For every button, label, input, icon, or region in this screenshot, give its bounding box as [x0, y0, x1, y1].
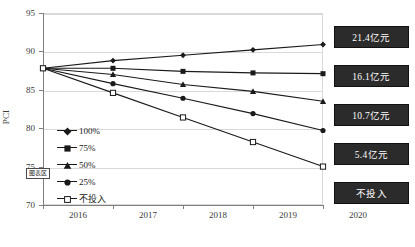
- chart-area-tooltip: 图表区: [26, 168, 50, 179]
- data-point[interactable]: [111, 66, 116, 71]
- value-box-75[interactable]: 16.1亿元: [334, 65, 409, 87]
- value-box-100[interactable]: 21.4亿元: [334, 26, 409, 48]
- x-tick-2: [183, 205, 184, 209]
- data-point[interactable]: [180, 115, 185, 120]
- data-point[interactable]: [180, 96, 185, 101]
- data-point[interactable]: [320, 164, 325, 169]
- data-point[interactable]: [40, 66, 45, 71]
- legend-label: 不投入: [79, 194, 106, 204]
- data-point[interactable]: [250, 111, 255, 116]
- x-tick-label-2016: 2016: [56, 210, 100, 220]
- y-axis-title: PCI: [1, 97, 11, 137]
- x-tick-0: [43, 205, 44, 209]
- x-tick-label-2018: 2018: [196, 210, 240, 220]
- legend-label: 100%: [79, 126, 100, 136]
- circle-icon: [57, 177, 77, 187]
- data-point[interactable]: [320, 128, 325, 133]
- legend-label: 75%: [79, 143, 96, 153]
- x-tick-4: [323, 205, 324, 209]
- x-tick-label-2017: 2017: [126, 210, 170, 220]
- x-tick-label-2020: 2020: [336, 210, 380, 220]
- legend[interactable]: 100% 75% 50%: [57, 122, 106, 207]
- legend-item-100[interactable]: 100%: [57, 122, 106, 139]
- square-icon: [57, 143, 77, 153]
- x-tick-label-2019: 2019: [266, 210, 310, 220]
- x-tick-1: [113, 205, 114, 209]
- data-point[interactable]: [110, 58, 116, 64]
- diamond-icon: [57, 126, 77, 136]
- open-square-icon: [57, 194, 77, 204]
- data-point[interactable]: [110, 90, 115, 95]
- value-box-none[interactable]: 不投入: [334, 182, 409, 204]
- data-point[interactable]: [181, 69, 186, 74]
- triangle-icon: [57, 160, 77, 170]
- legend-label: 25%: [79, 177, 96, 187]
- series-100%[interactable]: [40, 42, 326, 72]
- value-box-50[interactable]: 10.7亿元: [334, 104, 409, 126]
- data-point[interactable]: [110, 81, 115, 86]
- legend-item-75[interactable]: 75%: [57, 139, 106, 156]
- y-tick-label-70: 70: [5, 201, 35, 210]
- data-point[interactable]: [250, 139, 255, 144]
- data-point[interactable]: [321, 71, 326, 76]
- data-point[interactable]: [180, 52, 186, 58]
- y-tick-label-95: 95: [5, 9, 35, 18]
- chart-container: 95 90 85 80 75 70 PCI 2016 2017 2018 201…: [0, 0, 415, 247]
- x-tick-3: [253, 205, 254, 209]
- value-box-25[interactable]: 5.4亿元: [334, 143, 409, 165]
- legend-item-50[interactable]: 50%: [57, 156, 106, 173]
- data-point[interactable]: [250, 47, 256, 53]
- legend-label: 50%: [79, 160, 96, 170]
- legend-item-none[interactable]: 不投入: [57, 190, 106, 207]
- data-point[interactable]: [320, 42, 326, 48]
- series-75%[interactable]: [41, 66, 326, 76]
- data-point[interactable]: [251, 70, 256, 75]
- legend-item-25[interactable]: 25%: [57, 173, 106, 190]
- y-tick-label-90: 90: [5, 47, 35, 56]
- y-tick-label-85: 85: [5, 86, 35, 95]
